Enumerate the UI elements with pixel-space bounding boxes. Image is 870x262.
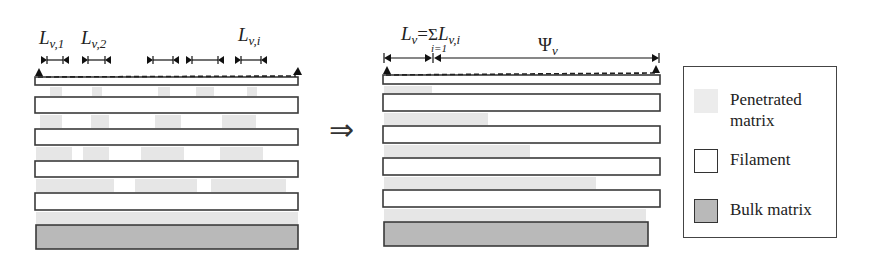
arrowhead-right-icon	[652, 54, 659, 62]
penetrated-patch	[91, 115, 109, 128]
bulk-swatch	[694, 199, 718, 223]
left-start-triangle-icon	[35, 68, 43, 76]
penetrated-patch	[40, 115, 62, 128]
penetrated-patch	[196, 87, 214, 96]
arrowhead-right-icon	[41, 56, 47, 64]
penetrated-patch	[50, 87, 62, 96]
left-bulk-matrix	[36, 225, 298, 249]
label-psi-v: Ψv	[538, 35, 558, 57]
penetrated-patch	[83, 147, 109, 160]
legend-filament-label: Filament	[730, 149, 790, 170]
legend-penetrated-line1: Penetrated	[730, 89, 802, 110]
penetrated-swatch	[694, 89, 718, 113]
penetrated-patch	[211, 179, 286, 192]
arrowhead-right-icon	[235, 56, 241, 64]
right-surface-dashed-line	[383, 65, 660, 75]
penetrated-patch	[92, 87, 102, 96]
penetrated-patch	[36, 212, 298, 224]
arrowhead-right-icon	[147, 56, 153, 64]
transform-arrow-icon: ⇒	[329, 115, 354, 145]
penetrated-patch	[141, 147, 184, 160]
filament	[35, 129, 298, 145]
arrowhead-left-icon	[105, 56, 111, 64]
penetrated-patch	[384, 113, 488, 125]
legend-item-penetrated: Penetrated matrix	[694, 89, 802, 131]
legend-bulk-label: Bulk matrix	[730, 199, 812, 220]
segment-length-marker	[41, 56, 69, 64]
arrowhead-left-icon	[261, 56, 267, 64]
right-start-triangle-icon	[383, 66, 391, 74]
legend: Penetrated matrix Filament Bulk matrix	[683, 66, 837, 238]
filament	[383, 158, 660, 175]
segment-length-marker	[235, 56, 267, 64]
arrowhead-left-icon	[384, 54, 391, 62]
arrowhead-left-icon	[173, 56, 179, 64]
legend-item-filament: Filament	[694, 149, 790, 173]
arrowhead-left-icon	[434, 54, 441, 62]
arrowhead-left-icon	[63, 56, 69, 64]
penetrated-patch	[384, 177, 596, 189]
label-lv2: Lv,2	[81, 28, 106, 50]
legend-item-bulk: Bulk matrix	[694, 199, 812, 223]
segment-length-marker	[147, 56, 179, 64]
label-lvi: Lv,i	[238, 25, 260, 47]
penetrated-patch	[36, 147, 72, 160]
penetrated-patch	[36, 179, 114, 192]
penetrated-patch	[222, 115, 256, 128]
filament	[383, 94, 660, 111]
filament-swatch	[694, 149, 718, 173]
filament	[35, 77, 298, 85]
filament	[383, 75, 660, 84]
filament	[383, 190, 660, 207]
segment-length-marker	[186, 56, 224, 64]
penetrated-patch	[384, 209, 646, 221]
penetrated-patch	[384, 145, 530, 157]
penetrated-patch	[155, 115, 181, 128]
arrowhead-right-icon	[186, 56, 192, 64]
arrowhead-right-icon	[82, 56, 88, 64]
penetrated-patch	[384, 86, 432, 93]
sum-index: i=1	[431, 42, 447, 54]
left-end-triangle-icon	[293, 67, 302, 75]
penetrated-patch	[135, 179, 197, 192]
left-surface-dashed-line	[35, 67, 302, 77]
arrowhead-right-icon	[425, 54, 432, 62]
right-dimension-arrows	[384, 53, 659, 63]
arrowhead-left-icon	[218, 56, 224, 64]
legend-penetrated-line2: matrix	[730, 110, 802, 131]
right-end-triangle-icon	[652, 65, 660, 73]
penetrated-patch	[247, 87, 257, 96]
filament	[383, 126, 660, 143]
filament	[35, 97, 298, 113]
penetrated-patch	[158, 87, 170, 96]
right-bulk-matrix	[384, 222, 648, 246]
filament	[35, 161, 298, 177]
segment-length-marker	[82, 56, 111, 64]
label-lv1: Lv,1	[39, 28, 64, 50]
penetrated-patch	[220, 147, 263, 160]
left-length-markers	[41, 56, 267, 64]
filament	[35, 193, 298, 210]
